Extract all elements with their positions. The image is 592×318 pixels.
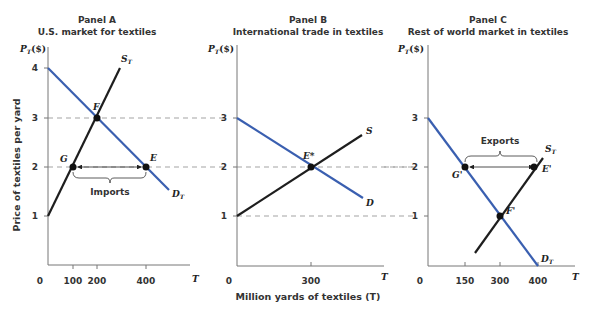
panel-b-y-axis-label: PT($) — [207, 44, 234, 55]
panel-a-demand-curve — [48, 68, 169, 190]
tick: 1 — [32, 211, 38, 221]
point-f-prime-label: F' — [505, 206, 515, 216]
point-f-prime — [497, 213, 504, 220]
tick: 3 — [221, 113, 227, 123]
point-e-prime-label: E' — [541, 164, 552, 174]
tick: 100 — [64, 276, 83, 286]
panel-a-supply-label: ST — [121, 54, 133, 65]
imports-label: Imports — [90, 187, 129, 197]
panel-a: Panel A U.S. market for textiles PT($) 4… — [19, 15, 200, 286]
exports-label: Exports — [481, 136, 520, 146]
point-e-label: E — [149, 153, 157, 163]
panel-b-supply-curve — [237, 135, 362, 216]
panel-c: Panel C Rest of world market in textiles… — [397, 15, 580, 286]
panel-a-y-axis-label: PT($) — [19, 44, 46, 55]
panel-b-x-axis-label: T — [381, 272, 389, 282]
exports-bracket — [465, 151, 537, 162]
tick: 2 — [221, 162, 227, 172]
panel-a-title: Panel A — [78, 15, 116, 25]
panel-b-title: Panel B — [289, 15, 327, 25]
tick: 1 — [412, 211, 418, 221]
panel-b: Panel B International trade in textiles … — [207, 15, 389, 302]
point-f — [94, 115, 101, 122]
tick: 0 — [226, 276, 232, 286]
tick: 300 — [302, 276, 321, 286]
point-g-label: G — [60, 154, 68, 164]
tick: 4 — [32, 63, 38, 73]
panel-c-y-axis-label: PT($) — [397, 44, 424, 55]
panel-c-demand-label: DT — [540, 254, 554, 265]
tick: 3 — [412, 113, 418, 123]
tick: 400 — [529, 276, 548, 286]
y-axis-label: Price of textiles per yard — [11, 98, 22, 231]
x-axis-label: Million yards of textiles (T) — [236, 291, 381, 302]
imports-bracket — [73, 172, 146, 183]
point-e — [143, 164, 150, 171]
point-g-prime-label: G' — [452, 170, 462, 180]
point-e-prime — [531, 164, 538, 171]
panel-c-x-axis-label: T — [572, 272, 580, 282]
tick: 3 — [32, 113, 38, 123]
point-e-star-label: E* — [302, 151, 315, 161]
figure-canvas: Price of textiles per yard Panel A U.S. … — [0, 0, 592, 318]
point-g — [70, 164, 77, 171]
panel-a-x-axis-label: T — [192, 274, 200, 284]
panel-b-demand-curve — [237, 118, 363, 198]
tick: 0 — [417, 276, 423, 286]
tick: 400 — [137, 276, 156, 286]
tick: 2 — [32, 162, 38, 172]
panel-c-supply-label: ST — [545, 144, 557, 155]
tick: 2 — [412, 162, 418, 172]
tick: 300 — [491, 276, 510, 286]
point-f-label: F — [92, 102, 100, 112]
point-e-star — [308, 164, 315, 171]
panel-c-title: Panel C — [469, 15, 507, 25]
tick: 1 — [221, 211, 227, 221]
point-g-prime — [462, 164, 469, 171]
panel-a-subtitle: U.S. market for textiles — [38, 27, 157, 37]
tick: 150 — [456, 276, 475, 286]
panel-a-demand-label: DT — [171, 189, 185, 200]
tick: 0 — [37, 276, 43, 286]
panel-c-subtitle: Rest of world market in textiles — [408, 27, 569, 37]
panel-b-demand-label: D — [365, 198, 374, 208]
panel-b-subtitle: International trade in textiles — [233, 27, 384, 37]
panel-b-supply-label: S — [366, 126, 373, 136]
tick: 200 — [88, 276, 107, 286]
